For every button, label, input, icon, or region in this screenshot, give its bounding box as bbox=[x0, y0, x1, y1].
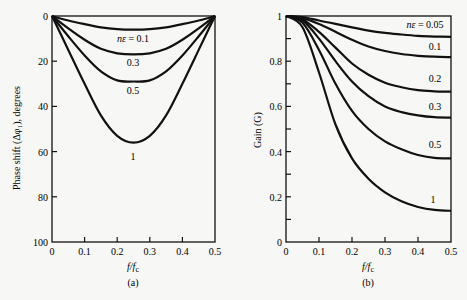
panel-b-curves bbox=[286, 16, 451, 211]
panel-a-x-axis-label: f/fc bbox=[127, 261, 139, 274]
panel-b-caption: (b) bbox=[362, 277, 374, 289]
curve-label: nε = 0.05 bbox=[406, 19, 443, 30]
y-tick-label: 0.8 bbox=[270, 56, 283, 67]
y-tick-label: 0.4 bbox=[270, 147, 283, 158]
x-tick-label: 0.5 bbox=[209, 246, 222, 257]
y-tick-label: 1 bbox=[277, 11, 282, 22]
curve-label: 0.5 bbox=[127, 85, 140, 96]
curve-0.5 bbox=[52, 16, 215, 82]
x-tick-label: 0.3 bbox=[379, 246, 392, 257]
x-tick-label: 0.1 bbox=[78, 246, 91, 257]
y-tick-label: 40 bbox=[38, 101, 48, 112]
panel-b-y-axis-label: Gain (G) bbox=[252, 112, 264, 148]
x-tick-label: 0.4 bbox=[176, 246, 189, 257]
x-tick-label: 0 bbox=[50, 246, 55, 257]
y-tick-label: 0.2 bbox=[270, 192, 283, 203]
curve-label: 1 bbox=[131, 151, 136, 162]
panel-a-y-axis-label: Phase shift (Δφ₁), degrees bbox=[11, 86, 23, 190]
panel-a-chart: 00.10.20.30.40.5020406080100 nε = 0.10.3… bbox=[11, 11, 221, 289]
curve-label: 0.3 bbox=[127, 57, 140, 68]
y-tick-label: 0.6 bbox=[270, 101, 283, 112]
x-tick-label: 0.2 bbox=[346, 246, 359, 257]
figure: 00.10.20.30.40.5020406080100 nε = 0.10.3… bbox=[0, 0, 467, 300]
curve-label: nε = 0.1 bbox=[117, 33, 149, 44]
panel-a-ticks: 00.10.20.30.40.5020406080100 bbox=[33, 11, 221, 257]
panel-b-chart: 00.10.20.30.40.500.20.40.60.81 nε = 0.05… bbox=[252, 11, 457, 289]
x-tick-label: 0.5 bbox=[445, 246, 458, 257]
y-tick-label: 60 bbox=[38, 147, 48, 158]
y-tick-label: 0 bbox=[277, 237, 282, 248]
curve-label: 0.3 bbox=[429, 101, 442, 112]
panel-a-caption: (a) bbox=[127, 277, 138, 289]
curve-label: 0.1 bbox=[429, 41, 442, 52]
panel-b-curve-labels: nε = 0.050.10.20.30.51 bbox=[406, 19, 443, 205]
y-tick-label: 0 bbox=[43, 11, 48, 22]
y-tick-label: 80 bbox=[38, 192, 48, 203]
curve-1 bbox=[286, 16, 451, 211]
curve-label: 1 bbox=[431, 194, 436, 205]
curve-label: 0.2 bbox=[429, 73, 442, 84]
y-tick-label: 20 bbox=[38, 56, 48, 67]
x-tick-label: 0.4 bbox=[412, 246, 425, 257]
x-tick-label: 0.2 bbox=[111, 246, 124, 257]
panel-a-frame bbox=[52, 16, 215, 242]
y-tick-label: 100 bbox=[33, 237, 48, 248]
panel-b-x-axis-label: f/fc bbox=[362, 261, 374, 274]
x-tick-label: 0.3 bbox=[144, 246, 157, 257]
x-tick-label: 0.1 bbox=[313, 246, 326, 257]
curve-0.1 bbox=[52, 16, 215, 30]
x-tick-label: 0 bbox=[284, 246, 289, 257]
curve-label: 0.5 bbox=[429, 139, 442, 150]
